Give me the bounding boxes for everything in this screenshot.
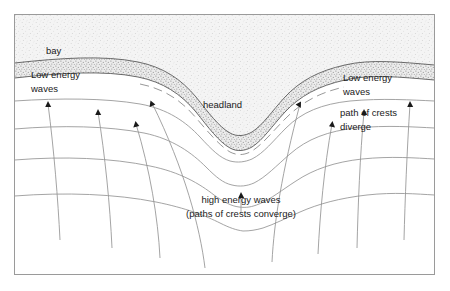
- orthogonal-4: [152, 103, 205, 268]
- label-low-energy-left-line2: waves: [30, 83, 58, 94]
- label-bay: bay: [46, 45, 62, 56]
- orthogonal-3: [136, 124, 160, 258]
- arrowhead-2: [95, 109, 101, 115]
- orthogonal-2: [98, 112, 112, 248]
- arrowhead-6: [329, 121, 335, 128]
- orthogonal-8: [404, 104, 410, 240]
- label-headland: headland: [203, 99, 242, 110]
- label-path-diverge-line1: path of crests: [340, 107, 397, 118]
- label-high-energy-line1: high energy waves: [201, 194, 280, 205]
- label-low-energy-left-line1: Low energy: [31, 69, 80, 80]
- label-low-energy-right-line2: waves: [342, 86, 370, 97]
- orthogonal-6: [318, 124, 332, 254]
- arrowhead-1: [45, 101, 51, 107]
- wave-refraction-diagram: bay headland Low energy waves Low energy…: [0, 0, 450, 291]
- label-low-energy-right-line1: Low energy: [343, 72, 392, 83]
- arrowhead-3: [133, 121, 139, 127]
- arrowhead-4: [150, 101, 156, 108]
- label-path-diverge-line2: diverge: [340, 121, 371, 132]
- diagram-canvas: bay headland Low energy waves Low energy…: [0, 0, 450, 291]
- label-high-energy-line2: (paths of crests converge): [186, 208, 296, 219]
- arrowhead-8: [407, 101, 413, 107]
- orthogonal-1: [48, 104, 60, 240]
- orthogonal-7: [357, 112, 364, 248]
